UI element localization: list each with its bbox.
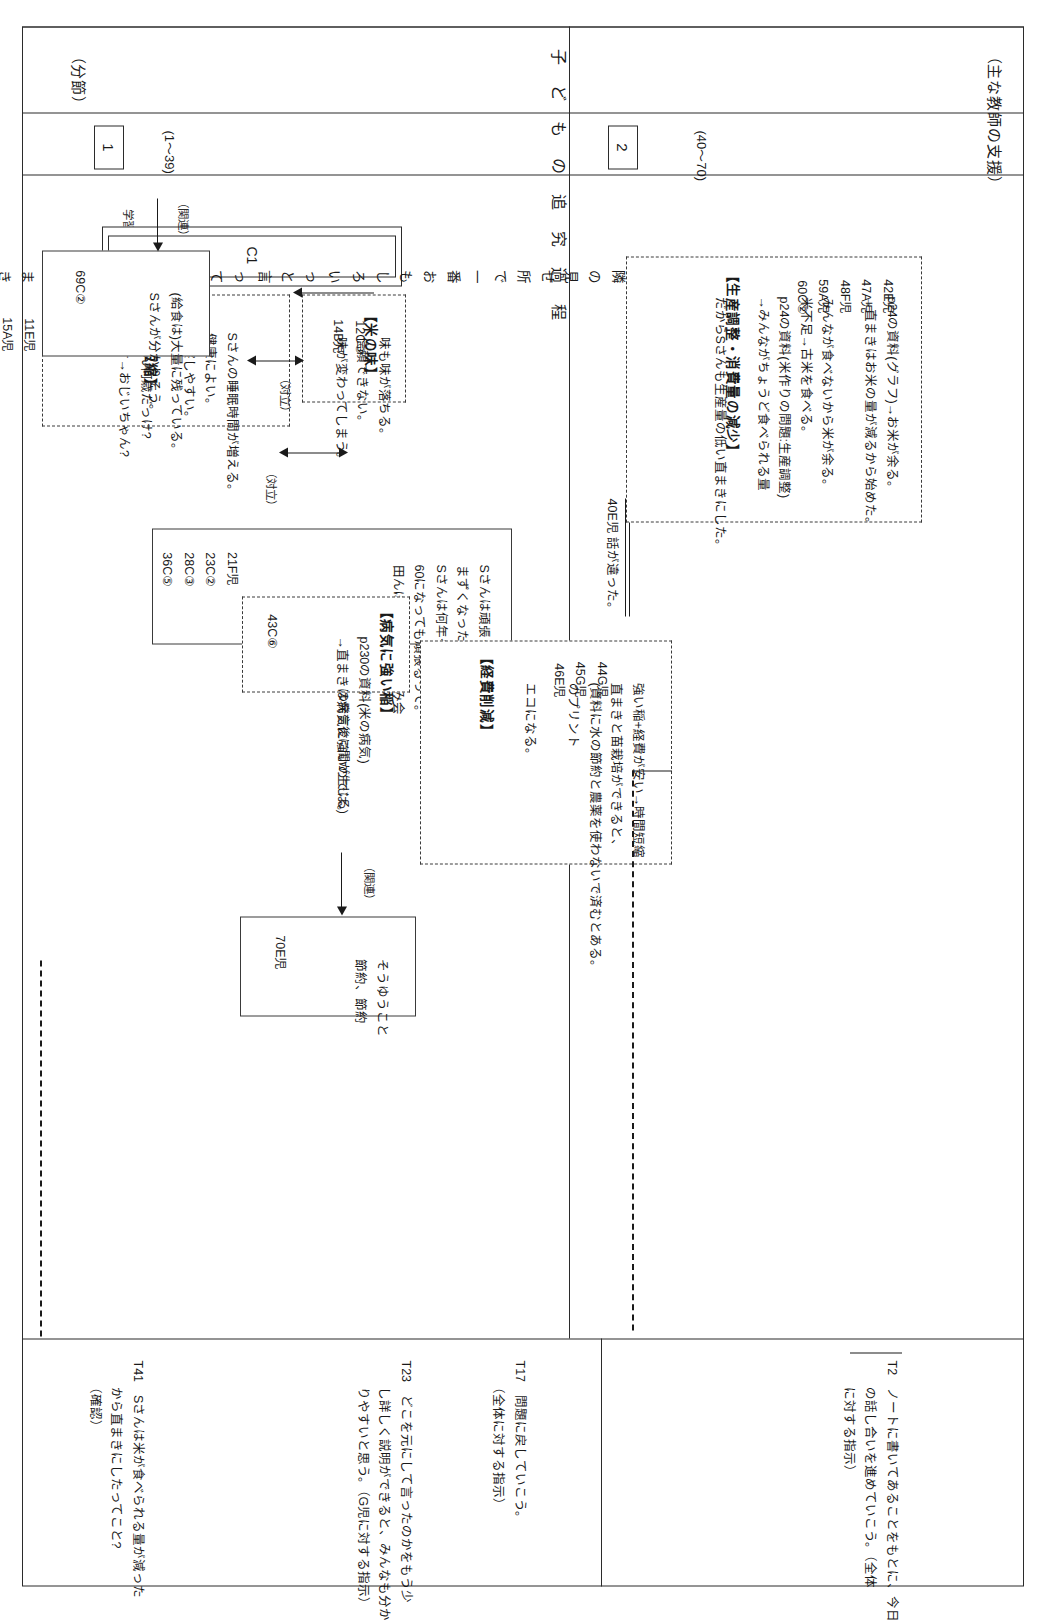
support-timeline-rule bbox=[850, 1352, 902, 1353]
connector-label-kanren-1: （関連） bbox=[176, 196, 192, 240]
rule-segment-col bbox=[22, 112, 1024, 113]
support-entry-T23: T23 どこを元にして言ったのかをもう少 し詳しく説明ができると、みんなも分か … bbox=[352, 1360, 417, 1620]
arrow-head-right-icon bbox=[153, 242, 163, 251]
block-title-byouki: 【病気に強い稲】 bbox=[378, 604, 398, 721]
support-entry-T2: T2 ノートに書いてあることをもとに、今日 の話し合いを進めていこう。（全体 に… bbox=[838, 1360, 903, 1622]
block-ids-kyuushoku: 69C② bbox=[69, 258, 91, 304]
arrow-head-up-icon bbox=[295, 355, 304, 365]
rule-support-col bbox=[22, 1338, 1024, 1339]
arrow-kanren-2 bbox=[341, 852, 342, 910]
rule-process-col bbox=[22, 174, 1024, 175]
block-lines-seisan-chosei: p24の資料(グラフ)→お米が余る。 →直まきはお米の量が減るから始めた。 みん… bbox=[709, 296, 903, 551]
arrow-head-down-icon bbox=[279, 447, 288, 457]
arrow-head-right-icon bbox=[337, 906, 347, 915]
arrow-problem-to-block bbox=[300, 292, 374, 293]
connector-label-tairitsu-1: （対立） bbox=[278, 372, 294, 416]
column-header-segment: （分節） bbox=[69, 48, 90, 112]
arrow-tairitsu-2 bbox=[284, 452, 342, 453]
dashed-flow-line-lower bbox=[40, 960, 42, 1336]
support-entry-T41: T41 Sさんは米が食べられる量が減った から直まきにしたってこと? （確認） bbox=[84, 1360, 149, 1598]
block-lines-kome-no-aji: 味も味が落ちる。 信頼できない。 味が変わってしまう。 bbox=[330, 336, 395, 464]
connector-label-kanren-2: （関連） bbox=[362, 860, 378, 904]
learning-problem-marker: C1 bbox=[244, 246, 260, 264]
segment-number: 1 bbox=[101, 143, 118, 151]
block-lines-keihi-sakugen: 強い稲+経費が安い→時間短縮 直まきと苗栽培ができると、 (資料に水の節約と農薬… bbox=[519, 682, 648, 972]
connector-label-tairitsu-2: （対立） bbox=[264, 466, 280, 510]
support-entry-T17: T17 問題に戻していこう。 （全体に対する指示） bbox=[487, 1360, 530, 1524]
segment-box-1: 1 bbox=[94, 125, 124, 169]
arrow-head-up-icon bbox=[339, 447, 348, 457]
dashed-flow-line-upper bbox=[632, 770, 634, 1330]
rule-header-sep bbox=[22, 26, 1024, 27]
block-lines-byouki: p230の資料(米の病気) →直まきは病気に強いのでは。 bbox=[331, 636, 374, 818]
transition-note-40e: 40E児 話が違った。 bbox=[602, 498, 622, 615]
block-lines-kyuushoku: (給食は)大量に残っている。 Sさんが分かりそう。 bbox=[143, 292, 186, 455]
segment-range-1: (1～39) bbox=[161, 130, 180, 173]
dashed-flow-riser bbox=[632, 770, 672, 771]
arrow-head-down-icon bbox=[247, 355, 256, 365]
column-header-support: （主な教師の支援） bbox=[985, 48, 1006, 191]
arrow-head-down-icon bbox=[293, 287, 302, 297]
arrow-kanren-1 bbox=[157, 198, 158, 246]
segment-number: 2 bbox=[615, 143, 632, 151]
block-ids-hanron: 21F児 23C② 28C③ 36C⑤ bbox=[156, 536, 242, 586]
arrow-tairitsu-1 bbox=[252, 360, 298, 361]
block-lines-matome: そうゆうこと 節約、節約 bbox=[349, 958, 392, 1036]
segment-range-2: (40～70) bbox=[693, 130, 712, 181]
segment-box-2: 2 bbox=[608, 125, 638, 169]
block-title-keihi-sakugen: 【経費削減】 bbox=[478, 650, 498, 738]
rule-support-split bbox=[601, 1338, 602, 1586]
block-ids-byouki: 43C⑥ bbox=[261, 602, 283, 648]
block-ids-matome: 70E児 bbox=[269, 924, 291, 970]
